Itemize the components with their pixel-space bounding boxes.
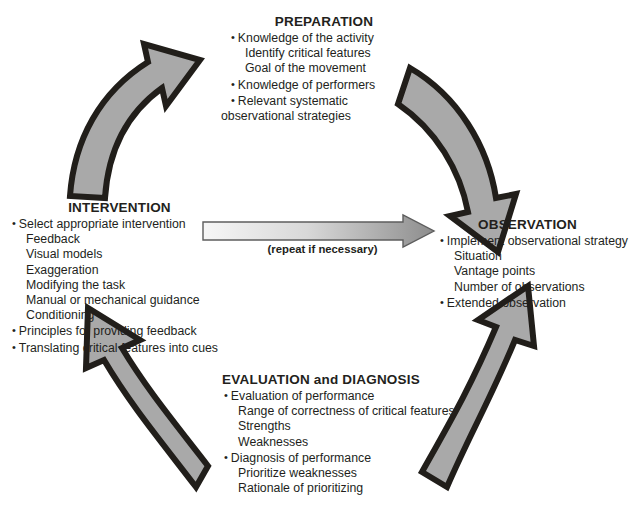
list-item: Evaluation of performance (224, 388, 436, 404)
list-item: Feedback (12, 232, 227, 247)
list-item: Vantage points (440, 264, 633, 279)
arrow-intervention-to-preparation (70, 44, 200, 198)
list-item: Implement observational strategy (440, 233, 633, 249)
list-item: Knowledge of performers (231, 77, 429, 93)
list-item: Visual models (12, 247, 227, 262)
list-item: Translating critical features into cues (12, 340, 227, 356)
preparation-heading: PREPARATION (219, 14, 429, 30)
list-item: Situation (440, 249, 633, 264)
list-item: Diagnosis of performance (224, 450, 436, 466)
intervention-list: Select appropriate intervention Feedback… (12, 216, 227, 356)
list-item: Knowledge of the activity (231, 30, 429, 46)
list-item: Goal of the movement (231, 61, 429, 76)
list-item: Extended observation (440, 295, 633, 311)
list-item: Conditioning (12, 308, 227, 323)
stage-intervention: INTERVENTION Select appropriate interven… (12, 200, 227, 356)
list-item: Modifying the task (12, 278, 227, 293)
preparation-list: Knowledge of the activity Identify criti… (219, 30, 429, 124)
evaluation-heading: EVALUATION and DIAGNOSIS (206, 372, 436, 388)
diagram-canvas: PREPARATION Knowledge of the activity Id… (0, 0, 635, 510)
stage-preparation: PREPARATION Knowledge of the activity Id… (219, 14, 429, 124)
list-item: Range of correctness of critical feature… (224, 404, 436, 419)
evaluation-list: Evaluation of performance Range of corre… (206, 388, 436, 496)
list-item: observational strategies (221, 109, 429, 124)
list-item: Rationale of prioritizing (224, 481, 436, 496)
list-item: Prioritize weaknesses (224, 466, 436, 481)
list-item: Exaggeration (12, 263, 227, 278)
stage-evaluation-and-diagnosis: EVALUATION and DIAGNOSIS Evaluation of p… (206, 372, 436, 496)
list-item: Identify critical features (231, 46, 429, 61)
list-item: Relevant systematic (231, 93, 429, 109)
list-item: Manual or mechanical guidance (12, 293, 227, 308)
list-item: Strengths (224, 419, 436, 434)
stage-observation: OBSERVATION Implement observational stra… (438, 217, 633, 311)
list-item: Principles for providing feedback (12, 323, 227, 339)
arrow-observation-to-evaluation (422, 286, 534, 487)
observation-heading: OBSERVATION (438, 217, 633, 233)
intervention-heading: INTERVENTION (12, 200, 227, 216)
list-item: Weaknesses (224, 435, 436, 450)
observation-list: Implement observational strategy Situati… (438, 233, 633, 311)
list-item: Select appropriate intervention (12, 216, 227, 232)
repeat-if-necessary-label: (repeat if necessary) (205, 243, 440, 255)
list-item: Number of observations (440, 280, 633, 295)
